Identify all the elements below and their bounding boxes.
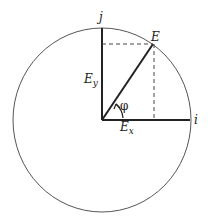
ex-label: Ex xyxy=(119,120,134,136)
vector-e-label: E xyxy=(150,30,160,44)
angle-arrowhead-icon xyxy=(114,104,120,109)
ey-label-base: E xyxy=(83,72,93,86)
ey-label: Ey xyxy=(83,72,99,88)
ey-label-subscript: y xyxy=(92,78,99,88)
i-axis-label: i xyxy=(194,113,198,127)
vector-diagram: j i E Ey Ex φ xyxy=(0,0,210,224)
ex-label-base: E xyxy=(119,120,129,134)
ex-label-subscript: x xyxy=(129,126,134,136)
j-axis-label: j xyxy=(96,10,103,24)
angle-phi-label: φ xyxy=(120,99,128,113)
